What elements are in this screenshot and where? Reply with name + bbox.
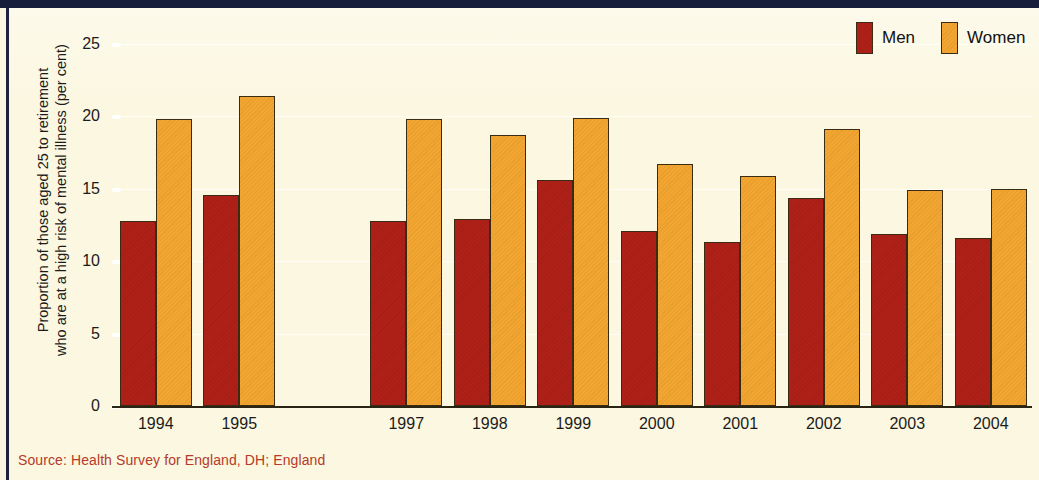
chart-figure: 0510152025 19941995199719981999200020012… xyxy=(0,0,1039,480)
bar-women-2003 xyxy=(907,190,943,406)
y-axis-title-line-1: Proportion of those aged 25 to retiremen… xyxy=(34,0,52,400)
x-axis-tick-label: 2000 xyxy=(615,414,699,434)
x-axis-tick-label: 1999 xyxy=(532,414,616,434)
legend-label-women: Women xyxy=(967,28,1025,48)
bar-men-2004 xyxy=(955,238,991,406)
bar-women-2000 xyxy=(657,164,693,406)
y-axis-tick-mark xyxy=(112,188,121,192)
legend-swatch-men xyxy=(856,22,873,54)
x-axis-tick-label: 2003 xyxy=(866,414,950,434)
y-axis-title-line-2: who are at a high risk of mental illness… xyxy=(52,0,70,400)
legend-item-men: Men xyxy=(856,22,941,54)
y-axis-tick-mark xyxy=(112,115,121,119)
bar-women-1998 xyxy=(490,135,526,406)
y-axis-tick-label: 0 xyxy=(60,398,100,414)
bar-women-2004 xyxy=(991,189,1027,406)
x-axis-tick-label: 2002 xyxy=(782,414,866,434)
source-note: Source: Health Survey for England, DH; E… xyxy=(18,452,325,468)
x-axis-tick-label: 1995 xyxy=(198,414,282,434)
bar-men-2000 xyxy=(621,231,657,406)
legend-label-men: Men xyxy=(882,28,915,48)
bar-men-2003 xyxy=(871,234,907,406)
x-axis-tick-label: 1998 xyxy=(448,414,532,434)
bar-men-1995 xyxy=(203,195,239,406)
bar-women-2002 xyxy=(824,129,860,406)
bar-women-2001 xyxy=(740,176,776,406)
x-axis-tick-label: 1994 xyxy=(114,414,198,434)
bar-women-1999 xyxy=(573,118,609,406)
x-axis-line xyxy=(112,406,1032,408)
y-axis-tick-mark xyxy=(112,43,121,47)
bar-men-1997 xyxy=(370,221,406,406)
plot-area: 0510152025 19941995199719981999200020012… xyxy=(0,0,1039,480)
bar-men-2001 xyxy=(704,242,740,406)
bar-women-1997 xyxy=(406,119,442,406)
bar-men-1998 xyxy=(454,219,490,406)
y-axis-title: Proportion of those aged 25 to retiremen… xyxy=(34,0,70,400)
bar-women-1994 xyxy=(156,119,192,406)
bar-men-2002 xyxy=(788,198,824,407)
x-axis-tick-label: 2001 xyxy=(699,414,783,434)
legend-swatch-women xyxy=(941,22,958,54)
x-axis-tick-label: 2004 xyxy=(949,414,1033,434)
bar-men-1994 xyxy=(120,221,156,406)
x-axis-tick-label: 1997 xyxy=(365,414,449,434)
legend: MenWomen xyxy=(856,22,1025,54)
bar-men-1999 xyxy=(537,180,573,406)
bar-women-1995 xyxy=(239,96,275,406)
legend-item-women: Women xyxy=(941,22,1025,54)
